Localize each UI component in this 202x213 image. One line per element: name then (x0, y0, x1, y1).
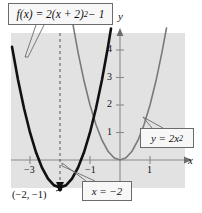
y-tick-label-1: 1 (107, 126, 112, 137)
y-tick-label-4: 4 (107, 43, 112, 54)
x-tick-label--1: −1 (85, 164, 96, 175)
figure-container: f(x) = 2(x + 2)2 − 1 y = 2x2 x = −2 y x … (0, 0, 202, 213)
y2x2-base: y = 2x (151, 132, 179, 144)
fx-leader-lines (25, 25, 44, 57)
y2x2-leader-lines (143, 117, 163, 128)
y-tick-label-3: 3 (107, 71, 112, 82)
y2x2-exponent: 2 (179, 134, 183, 143)
x-axis-label: x (188, 154, 193, 166)
x-tick-label--3: −3 (24, 164, 35, 175)
callout-axis-of-symmetry: x = −2 (82, 181, 132, 201)
vertex-leader-line (56, 190, 59, 191)
fx-equation-tail: − 1 (88, 8, 104, 20)
x-tick-label-1: 1 (147, 164, 152, 175)
y-tick-label-2: 2 (107, 98, 112, 109)
callout-y-2x2: y = 2x2 (140, 128, 194, 148)
vertex-coordinate-label: (−2, −1) (12, 189, 47, 200)
fx-equation-base: f(x) = 2(x + 2) (17, 8, 84, 20)
callout-fx-equation: f(x) = 2(x + 2)2 − 1 (8, 3, 113, 25)
y-axis-label: y (118, 10, 123, 22)
y-axis (116, 28, 124, 188)
